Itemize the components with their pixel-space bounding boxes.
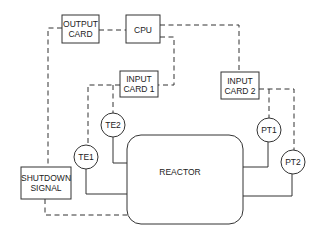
cpu-node: CPU <box>126 15 160 43</box>
te2-sensor: TE2 <box>101 113 125 137</box>
pt1-sensor: PT1 <box>257 118 281 142</box>
te1-label: TE1 <box>78 152 94 162</box>
output-card-label-2: CARD <box>68 29 92 39</box>
te1-sensor: TE1 <box>74 145 98 169</box>
shutdown-signal-node: SHUTDOWN SIGNAL <box>21 167 71 199</box>
edge-reactor-to-te2 <box>113 137 127 163</box>
input-card-1-label-2: CARD 1 <box>123 84 154 94</box>
pt1-label: PT1 <box>261 125 277 135</box>
output-card-label-1: OUTPUT <box>63 19 98 29</box>
te2-label: TE2 <box>105 120 121 130</box>
reactor-node: REACTOR <box>127 135 243 224</box>
input-card-2-label-2: CARD 2 <box>224 86 255 96</box>
pt2-label: PT2 <box>285 157 301 167</box>
edge-reactor-to-pt2 <box>243 174 292 196</box>
edge-reactor-to-pt1 <box>243 142 268 167</box>
edge-output-to-shutdown <box>48 28 62 167</box>
reactor-protection-diagram: OUTPUT CARD CPU INPUT CARD 1 INPUT CARD … <box>0 0 321 233</box>
edge-input2-to-cpu <box>160 25 239 72</box>
shutdown-label-1: SHUTDOWN <box>21 173 71 183</box>
input-card-1-label-1: INPUT <box>126 74 152 84</box>
pt2-sensor: PT2 <box>281 150 305 174</box>
cpu-label: CPU <box>134 25 152 35</box>
input-card-2-node: INPUT CARD 2 <box>221 72 259 99</box>
edge-reactor-to-te1 <box>86 169 127 194</box>
input-card-1-node: INPUT CARD 1 <box>120 71 158 97</box>
output-card-node: OUTPUT CARD <box>62 15 99 43</box>
edge-shutdown-to-reactor <box>45 199 127 215</box>
shutdown-label-2: SIGNAL <box>30 183 61 193</box>
input-card-2-label-1: INPUT <box>227 76 253 86</box>
edge-input1-to-cpu <box>158 37 174 85</box>
reactor-label: REACTOR <box>159 167 200 177</box>
